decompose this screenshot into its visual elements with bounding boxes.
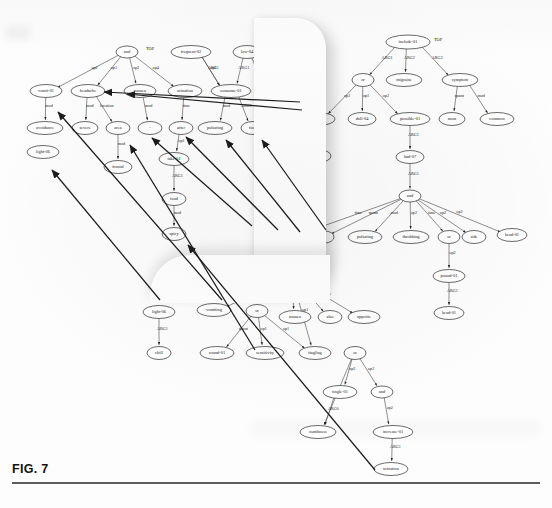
arrow-to-frontal [130,145,255,350]
arrow-to-after [186,137,278,230]
arrow-to-food [262,140,326,230]
arrow-to-dot-node [152,138,252,226]
arrow-to-spicy [188,245,375,470]
arrow-to-light06 [52,170,160,300]
figure-caption: FIG. 7 [12,462,49,476]
arrow-to-pulsating [226,140,300,232]
arrow-to-nausea [127,94,302,110]
figure-page: op2op1op2op4op1ARG1ARG1degreemodmodlocat… [0,0,552,508]
annotation-arrows [52,92,375,470]
caption-rule [12,482,540,484]
annotation-arrow-layer [0,0,552,508]
